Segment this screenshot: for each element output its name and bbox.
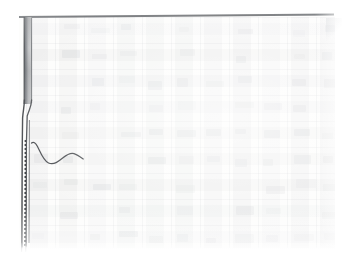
ghosted-cell-text <box>177 234 188 242</box>
ghosted-cell-text <box>322 133 333 139</box>
ghosted-cell-text <box>266 235 278 242</box>
ghosted-cell-text <box>236 56 246 63</box>
ghosted-cell-text <box>119 76 135 84</box>
ghosted-cell-text <box>90 234 99 240</box>
ghosted-cell-text <box>323 184 335 190</box>
ghosted-cell-text <box>91 28 110 33</box>
ghosted-cell-text <box>64 24 80 30</box>
ghosted-cell-text <box>177 130 196 137</box>
scanned-page-canvas <box>0 0 355 260</box>
ghosted-cell-text <box>119 184 137 190</box>
ghosted-cell-text <box>63 156 73 163</box>
ghosted-cell-text <box>293 105 307 112</box>
ghosted-cell-text <box>176 185 195 194</box>
ghosted-cell-text <box>238 29 254 34</box>
ghosted-cell-text <box>207 156 220 162</box>
ghosted-cell-text <box>121 132 140 137</box>
ghosted-cell-text <box>324 233 335 240</box>
ghosted-cell-text <box>238 76 252 84</box>
ghosted-cell-text <box>294 54 304 60</box>
ghosted-cell-text <box>119 231 138 237</box>
ghosted-cell-text <box>149 236 163 244</box>
ghosted-table-grid <box>26 17 335 248</box>
ghosted-cell-text <box>264 103 282 111</box>
ghosted-cell-text <box>92 78 105 86</box>
ghosted-cell-text <box>236 206 254 215</box>
ghosted-cell-text <box>206 129 221 136</box>
page-corner-fold-icon <box>326 18 342 42</box>
ghosted-cell-text <box>90 103 101 109</box>
ghosted-cell-text <box>177 206 192 215</box>
ghosted-cell-text <box>235 129 245 135</box>
ghosted-cell-text <box>206 81 224 87</box>
ghosted-cell-text <box>120 51 137 57</box>
ghosted-cell-text <box>34 154 49 163</box>
ghosted-cell-text <box>294 234 314 242</box>
ghosted-cell-text <box>294 129 310 136</box>
ghosted-cell-text <box>179 156 194 165</box>
ghosted-cell-text <box>148 81 162 90</box>
ghosted-cell-text <box>119 207 130 213</box>
ghosted-cell-text <box>60 212 78 220</box>
ghosted-cell-text <box>324 79 335 88</box>
ghosted-cell-text <box>322 52 332 60</box>
ghosted-cell-text <box>149 105 163 112</box>
ghosted-cell-text <box>179 27 189 33</box>
ghosted-cell-text <box>293 30 304 38</box>
ghosted-cell-text <box>206 238 215 243</box>
ghosted-cell-text <box>64 179 78 185</box>
ghosted-cell-text <box>323 156 332 163</box>
ghosted-cell-text <box>93 184 111 191</box>
ghosted-cell-text <box>322 212 335 219</box>
ghosted-cell-text <box>177 78 189 87</box>
ghosted-cell-text <box>264 130 281 138</box>
ghosted-cell-text <box>121 24 131 30</box>
ghosted-cell-text <box>178 101 197 110</box>
ghosted-cell-text <box>180 49 196 56</box>
ghosted-cell-text <box>149 129 163 135</box>
ghosted-cell-text <box>235 102 254 107</box>
ghosted-cell-text <box>292 79 306 86</box>
ghosted-cell-text <box>33 182 47 188</box>
ghosted-cell-text <box>263 159 273 166</box>
ghosted-cell-text <box>296 179 316 188</box>
ghosted-cell-text <box>294 155 311 164</box>
ghosted-cell-text <box>61 107 70 115</box>
ghosted-cell-text <box>148 157 166 163</box>
ghosted-cell-text <box>235 234 254 243</box>
ghosted-cell-text <box>32 233 44 239</box>
ghosted-cell-text <box>92 54 107 59</box>
ghosted-cell-text <box>235 159 248 167</box>
ghosted-cell-text <box>62 132 79 140</box>
ghosted-cell-text <box>266 208 280 214</box>
ghosted-cell-text <box>62 50 80 58</box>
ghosted-cell-text <box>266 186 285 194</box>
